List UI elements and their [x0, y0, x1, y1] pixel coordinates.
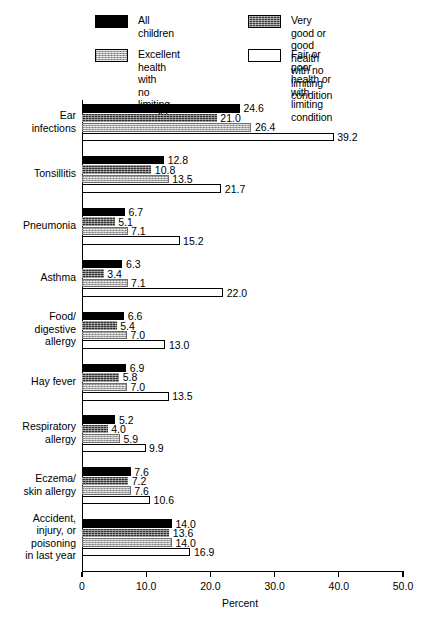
value-label-excellent-2: 7.1 [131, 226, 146, 237]
value-label-excellent-3: 7.1 [131, 278, 146, 289]
value-label-fair-2: 15.2 [183, 236, 203, 247]
category-label-6: Respiratory allergy [0, 420, 76, 445]
bar-fair-3 [82, 288, 223, 297]
value-label-excellent-6: 5.9 [123, 434, 138, 445]
bar-verygood-7 [82, 477, 128, 486]
value-label-excellent-0: 26.4 [255, 122, 275, 133]
category-label-5: Hay fever [0, 375, 76, 388]
x-tick-label-5: 50.0 [381, 580, 425, 592]
bar-all-5 [82, 364, 126, 373]
bar-fair-7 [82, 496, 150, 505]
bar-verygood-3 [82, 269, 104, 278]
x-tick-label-2: 20.0 [188, 580, 232, 592]
value-label-fair-3: 22.0 [227, 288, 247, 299]
bar-excellent-4 [82, 331, 127, 340]
bar-excellent-7 [82, 486, 131, 495]
bar-excellent-3 [82, 279, 128, 288]
bar-fair-5 [82, 392, 169, 401]
bar-all-4 [82, 312, 124, 321]
bar-fair-2 [82, 236, 180, 245]
x-axis-line [82, 571, 404, 572]
category-label-0: Ear infections [0, 109, 76, 134]
value-label-fair-7: 10.6 [154, 495, 174, 506]
bar-excellent-0 [82, 123, 251, 132]
value-label-fair-8: 16.9 [194, 547, 214, 558]
value-label-excellent-7: 7.6 [134, 486, 149, 497]
value-label-excellent-1: 13.5 [172, 174, 192, 185]
x-tick-3 [274, 572, 275, 577]
value-label-fair-6: 9.9 [149, 443, 164, 454]
bar-fair-0 [82, 133, 334, 142]
value-label-excellent-8: 14.0 [175, 538, 195, 549]
bar-excellent-5 [82, 383, 127, 392]
value-label-fair-0: 39.2 [337, 132, 357, 143]
bar-excellent-8 [82, 538, 172, 547]
bar-all-8 [82, 519, 172, 528]
value-label-all-3: 6.3 [126, 259, 141, 270]
bar-fair-1 [82, 184, 221, 193]
x-tick-label-3: 30.0 [253, 580, 297, 592]
x-tick-label-0: 0 [60, 580, 104, 592]
x-tick-5 [402, 572, 403, 577]
value-label-verygood-3: 3.4 [107, 269, 122, 280]
bar-fair-4 [82, 340, 165, 349]
category-label-2: Pneumonia [0, 219, 76, 232]
value-label-all-0: 24.6 [243, 103, 263, 114]
category-label-8: Accident, injury, or poisoning in last y… [0, 512, 76, 562]
value-label-fair-5: 13.5 [172, 391, 192, 402]
value-label-excellent-4: 7.0 [130, 330, 145, 341]
x-axis-label: Percent [180, 597, 300, 609]
x-tick-label-4: 40.0 [317, 580, 361, 592]
bar-fair-6 [82, 444, 146, 453]
bar-verygood-8 [82, 529, 169, 538]
bar-all-0 [82, 104, 240, 113]
value-label-excellent-5: 7.0 [130, 382, 145, 393]
bar-fair-8 [82, 548, 190, 557]
plot-area: 010.020.030.040.050.0 Percent Ear infect… [0, 0, 442, 628]
x-tick-4 [338, 572, 339, 577]
x-tick-2 [210, 572, 211, 577]
x-tick-label-1: 10.0 [124, 580, 168, 592]
bar-verygood-1 [82, 165, 151, 174]
bar-verygood-2 [82, 217, 115, 226]
category-label-7: Eczema/ skin allergy [0, 472, 76, 497]
bar-verygood-6 [82, 425, 108, 434]
bar-all-7 [82, 467, 131, 476]
bar-excellent-6 [82, 434, 120, 443]
bar-all-1 [82, 156, 164, 165]
bar-verygood-0 [82, 114, 217, 123]
bar-all-3 [82, 260, 122, 269]
bar-verygood-4 [82, 321, 117, 330]
x-tick-1 [146, 572, 147, 577]
value-label-fair-1: 21.7 [225, 184, 245, 195]
bar-excellent-2 [82, 227, 128, 236]
category-label-1: Tonsillitis [0, 167, 76, 180]
category-label-3: Asthma [0, 271, 76, 284]
x-tick-0 [81, 572, 82, 577]
category-label-4: Food/ digestive allergy [0, 310, 76, 348]
bar-chart: All children Excellent health with no li… [0, 0, 442, 628]
value-label-fair-4: 13.0 [169, 340, 189, 351]
value-label-verygood-0: 21.0 [220, 113, 240, 124]
bar-excellent-1 [82, 175, 169, 184]
bar-verygood-5 [82, 373, 119, 382]
